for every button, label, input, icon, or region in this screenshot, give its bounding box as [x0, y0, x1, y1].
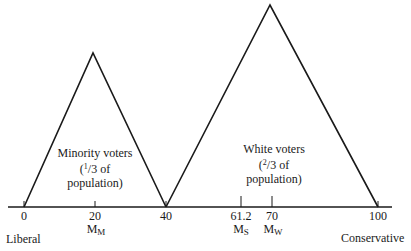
conservative-label: Conservative	[341, 231, 404, 245]
minority-name: Minority voters	[57, 146, 133, 160]
median-society-marker: MS	[233, 222, 249, 237]
tick-label-0: 0	[21, 209, 27, 224]
white-fraction: (2/3 of	[236, 156, 312, 172]
frac-suffix: of	[279, 158, 289, 172]
white-population: population)	[236, 172, 312, 186]
marker-sub: S	[244, 227, 249, 237]
frac-num: 2	[263, 158, 267, 167]
tick-label-40: 40	[160, 209, 172, 224]
frac-den: 3	[270, 158, 276, 172]
tick-label-100: 100	[369, 209, 387, 224]
frac-num: 1	[84, 162, 88, 171]
marker-m: M	[263, 222, 274, 236]
marker-sub: M	[97, 227, 105, 237]
median-white-marker: MW	[263, 222, 282, 237]
frac-suffix: of	[100, 162, 110, 176]
marker-m: M	[87, 222, 98, 236]
white-voters-label: White voters (2/3 of population)	[236, 142, 312, 186]
median-minority-marker: MM	[87, 222, 106, 237]
minority-voters-label: Minority voters (1/3 of population)	[57, 146, 133, 190]
minority-population: population)	[57, 176, 133, 190]
minority-fraction: (1/3 of	[57, 160, 133, 176]
marker-sub: W	[274, 227, 283, 237]
distribution-diagram	[0, 0, 411, 251]
frac-den: 3	[91, 162, 97, 176]
white-name: White voters	[236, 142, 312, 156]
liberal-label: Liberal	[6, 232, 41, 246]
marker-m: M	[233, 222, 244, 236]
